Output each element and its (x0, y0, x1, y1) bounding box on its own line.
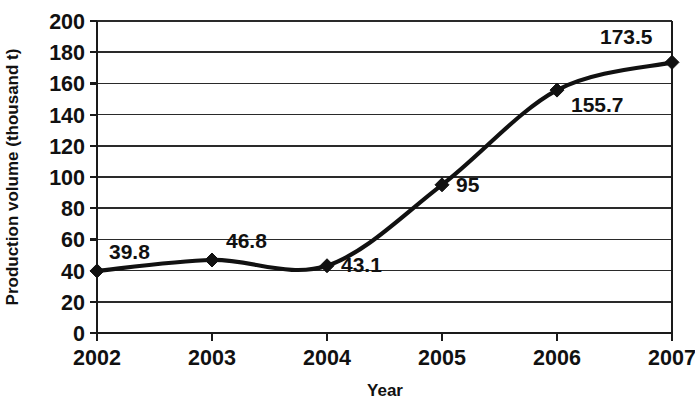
data-point-markers (90, 55, 679, 278)
plot-gridlines (97, 21, 672, 333)
x-tick-label: 2003 (188, 346, 236, 370)
x-tick-label: 2007 (648, 346, 695, 370)
data-point-label: 43.1 (341, 253, 382, 276)
y-tick-label: 20 (61, 291, 85, 315)
y-tick-label: 100 (49, 166, 85, 190)
y-tick-label: 120 (49, 135, 85, 159)
data-point-marker (90, 264, 104, 278)
y-tick-label: 80 (61, 197, 85, 221)
y-axis-tick-labels: 020406080100120140160180200 (49, 10, 85, 346)
y-tick-label: 200 (49, 10, 85, 34)
y-tick-label: 40 (61, 260, 85, 284)
chart-canvas: 020406080100120140160180200 200220032004… (0, 0, 695, 405)
x-tick-label: 2005 (418, 346, 466, 370)
x-axis-tick-labels: 200220032004200520062007 (73, 346, 695, 370)
x-tick-label: 2004 (303, 346, 351, 370)
y-axis-title: Production volume (thousand t) (3, 49, 22, 306)
data-point-label: 173.5 (600, 25, 653, 48)
x-tick-label: 2006 (533, 346, 581, 370)
x-axis-title: Year (367, 381, 403, 400)
y-tick-label: 0 (73, 322, 85, 346)
data-point-label: 95 (456, 173, 480, 196)
data-point-marker (665, 55, 679, 69)
x-axis-ticks (97, 333, 672, 341)
line-chart-figure: 020406080100120140160180200 200220032004… (0, 0, 695, 405)
data-point-label: 155.7 (571, 93, 624, 116)
x-tick-label: 2002 (73, 346, 121, 370)
y-tick-label: 160 (49, 72, 85, 96)
y-tick-label: 180 (49, 41, 85, 65)
y-tick-label: 60 (61, 228, 85, 252)
data-point-label: 39.8 (109, 240, 150, 263)
data-point-marker (205, 253, 219, 267)
y-tick-label: 140 (49, 104, 85, 128)
data-point-label: 46.8 (226, 229, 267, 252)
data-point-labels: 39.846.843.195155.7173.5 (109, 25, 653, 275)
